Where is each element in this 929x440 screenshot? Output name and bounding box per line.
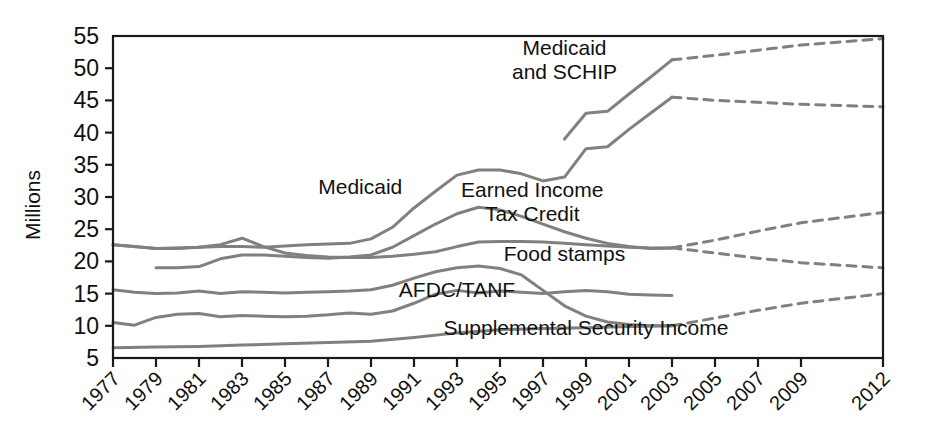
y-tick-label: 35	[73, 152, 99, 178]
x-tick-label: 2007	[722, 367, 769, 414]
y-tick-label: 20	[73, 248, 99, 274]
afdc-tanf-label-line: AFDC/TANF	[399, 278, 515, 301]
x-tick-label: 1989	[335, 367, 382, 414]
food-stamps-label: Food stamps	[504, 242, 625, 265]
medicaid-label-line: Medicaid	[318, 175, 402, 198]
y-tick-label: 25	[73, 216, 99, 242]
medicaid-and-schip-label: Medicaidand SCHIP	[512, 36, 617, 83]
y-axis-title: Millions	[21, 170, 44, 240]
line-chart: Millions 555045403530252015105 197719791…	[0, 0, 929, 440]
y-tick-label: 10	[73, 313, 99, 339]
earned-income-tax-credit-label-line: Earned Income	[461, 178, 603, 201]
food-stamps-label-line: Food stamps	[504, 242, 625, 265]
x-tick-label: 1983	[206, 367, 253, 414]
y-tick-label: 5	[86, 345, 99, 371]
x-tick-label: 1981	[163, 367, 210, 414]
x-axis-ticks: 1977197919811983198519871989199119931995…	[77, 358, 894, 414]
x-tick-label: 1997	[507, 367, 554, 414]
y-axis-title-group: Millions	[21, 170, 44, 240]
medicaid-and-schip-label-line: Medicaid	[522, 36, 606, 59]
earned-income-tax-credit-label-line: Tax Credit	[485, 202, 580, 225]
x-tick-label: 2003	[636, 367, 683, 414]
x-tick-label: 1991	[378, 367, 425, 414]
series-food-stamps-projected	[672, 248, 883, 268]
chart-container: Millions 555045403530252015105 197719791…	[0, 0, 929, 440]
y-tick-label: 40	[73, 120, 99, 146]
y-tick-label: 45	[73, 87, 99, 113]
x-tick-label: 1987	[292, 367, 339, 414]
afdc-tanf-label: AFDC/TANF	[399, 278, 515, 301]
x-tick-label: 1977	[77, 367, 124, 414]
series-medicaid-and-schip-upper-projected	[672, 39, 883, 60]
series-earned-income-tax-credit-projected	[672, 212, 883, 247]
y-tick-label: 15	[73, 281, 99, 307]
earned-income-tax-credit-label: Earned IncomeTax Credit	[461, 178, 603, 225]
y-tick-label: 30	[73, 184, 99, 210]
series-medicaid-and-schip	[113, 97, 672, 248]
medicaid-label: Medicaid	[318, 175, 402, 198]
x-tick-label: 1979	[120, 367, 167, 414]
x-tick-label: 1999	[550, 367, 597, 414]
x-tick-label: 2005	[679, 367, 726, 414]
medicaid-and-schip-label-line: and SCHIP	[512, 60, 617, 83]
x-tick-label: 2009	[765, 367, 812, 414]
x-tick-label: 2012	[847, 367, 894, 414]
y-tick-label: 55	[73, 23, 99, 49]
supplemental-security-income-label: Supplemental Security Income	[444, 316, 729, 339]
supplemental-security-income-label-line: Supplemental Security Income	[444, 316, 729, 339]
y-tick-label: 50	[73, 55, 99, 81]
x-tick-label: 1985	[249, 367, 296, 414]
x-tick-label: 2001	[593, 367, 640, 414]
y-axis-ticks: 555045403530252015105	[73, 23, 113, 371]
series-medicaid-and-schip-projected	[672, 97, 883, 107]
x-tick-label: 1995	[464, 367, 511, 414]
x-tick-label: 1993	[421, 367, 468, 414]
